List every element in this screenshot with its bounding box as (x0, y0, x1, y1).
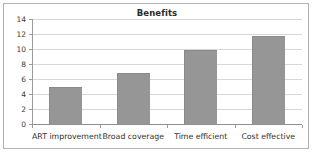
y-axis-tick-label: 6 (4, 75, 26, 84)
x-axis-tick-mark (100, 125, 101, 128)
chart-title: Benefits (4, 8, 310, 18)
y-axis-line (32, 19, 33, 125)
y-axis-tick-label: 12 (4, 30, 26, 39)
y-axis-tick-label: 0 (4, 120, 26, 129)
y-axis-tick-label: 14 (4, 15, 26, 24)
y-axis-tick-mark (29, 109, 32, 110)
x-axis-tick-mark (235, 125, 236, 128)
bar (252, 36, 285, 125)
y-axis-tick-label: 2 (4, 105, 26, 114)
x-axis-category-label: Time efficient (167, 132, 235, 141)
bar (117, 73, 150, 124)
y-axis-tick-mark (29, 49, 32, 50)
x-axis-tick-mark (302, 125, 303, 128)
bar (184, 50, 217, 124)
gridline (32, 19, 302, 20)
x-axis-category-label: ART improvement (32, 132, 100, 141)
x-axis-tick-mark (32, 125, 33, 128)
y-axis-tick-mark (29, 94, 32, 95)
chart-container: Benefits 02468101214ART improvementBroad… (3, 3, 309, 149)
y-axis-tick-mark (29, 79, 32, 80)
y-axis-tick-label: 10 (4, 45, 26, 54)
y-axis-tick-label: 8 (4, 60, 26, 69)
y-axis-tick-label: 4 (4, 90, 26, 99)
y-axis-tick-mark (29, 19, 32, 20)
y-axis-tick-mark (29, 64, 32, 65)
bar (49, 87, 82, 124)
x-axis-category-label: Broad coverage (100, 132, 168, 141)
x-axis-category-label: Cost effective (235, 132, 303, 141)
x-axis-tick-mark (167, 125, 168, 128)
y-axis-tick-mark (29, 34, 32, 35)
